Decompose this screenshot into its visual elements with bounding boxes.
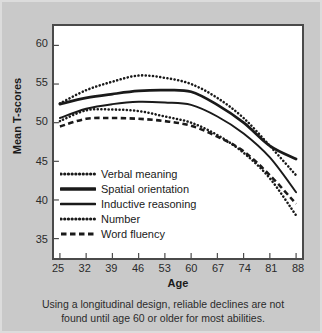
- y-tick-label: 50: [26, 116, 48, 127]
- figure-caption: Using a longitudinal design, reliable de…: [16, 297, 310, 325]
- legend-line-swatch: [60, 169, 96, 179]
- x-tick-label: 39: [99, 262, 123, 274]
- y-axis-title: Mean T-scores: [11, 68, 23, 164]
- figure-container: 354045505560 Mean T-scores 2532394653606…: [0, 0, 322, 333]
- x-axis-title: Age: [52, 277, 304, 289]
- y-tick-label: 40: [26, 195, 48, 206]
- legend-item[interactable]: Inductive reasoning: [60, 196, 230, 211]
- x-tick-label: 32: [73, 262, 97, 274]
- legend-label: Verbal meaning: [101, 168, 177, 180]
- y-tick-label: 55: [26, 77, 48, 88]
- chart-legend: Verbal meaningSpatial orientationInducti…: [60, 166, 230, 241]
- x-tick-label: 88: [286, 262, 310, 274]
- y-tick-label: 45: [26, 156, 48, 167]
- caption-line-1: Using a longitudinal design, reliable de…: [16, 297, 310, 311]
- x-tick-label: 60: [179, 262, 203, 274]
- y-axis-tick-labels: 354045505560: [22, 24, 48, 260]
- x-tick-label: 81: [259, 262, 283, 274]
- x-tick-label: 67: [206, 262, 230, 274]
- legend-line-swatch: [60, 184, 96, 194]
- legend-item[interactable]: Word fluency: [60, 226, 230, 241]
- x-tick-label: 53: [153, 262, 177, 274]
- y-tick-label: 60: [26, 38, 48, 49]
- caption-line-2: found until age 60 or older for most abi…: [16, 311, 310, 325]
- legend-line-swatch: [60, 214, 96, 224]
- y-tick-label: 35: [26, 234, 48, 245]
- legend-label: Spatial orientation: [101, 183, 189, 195]
- legend-label: Number: [101, 213, 140, 225]
- x-axis-tick-labels: 25323946536067748188: [52, 262, 304, 276]
- legend-label: Word fluency: [101, 228, 165, 240]
- x-tick-label: 46: [126, 262, 150, 274]
- x-tick-label: 74: [233, 262, 257, 274]
- legend-item[interactable]: Spatial orientation: [60, 181, 230, 196]
- x-tick-label: 25: [46, 262, 70, 274]
- legend-item[interactable]: Number: [60, 211, 230, 226]
- legend-label: Inductive reasoning: [101, 198, 196, 210]
- legend-line-swatch: [60, 199, 96, 209]
- legend-item[interactable]: Verbal meaning: [60, 166, 230, 181]
- legend-line-swatch: [60, 229, 96, 239]
